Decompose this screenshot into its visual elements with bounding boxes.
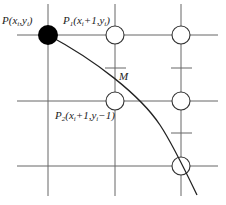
pixel-circle — [172, 26, 190, 44]
pixel-circle — [172, 157, 190, 175]
label-p2: P2(xi+1,yi−1) — [54, 109, 115, 123]
pixel-circle — [172, 92, 190, 110]
midpoint-circle-diagram: P(xi,yi) P1(xi+1,yi) M P2(xi+1,yi−1) — [0, 0, 226, 205]
label-p: P(xi,yi) — [1, 14, 33, 28]
current-pixel-p — [38, 25, 58, 45]
label-m: M — [118, 70, 129, 82]
pixel-p2 — [106, 92, 124, 110]
label-p1: P1(xi+1,yi) — [62, 14, 110, 28]
pixel-p1 — [106, 26, 124, 44]
